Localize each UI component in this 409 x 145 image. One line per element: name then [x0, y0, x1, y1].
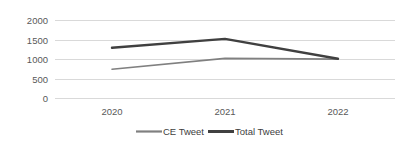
- y-axis-tick-labels: 2000 1500 1000 500 0: [27, 15, 48, 104]
- y-tick-label-0: 0: [43, 93, 48, 104]
- x-axis-tick-labels: 2020 2021 2022: [101, 106, 348, 117]
- data-series-group: [112, 39, 338, 69]
- x-tick-label-2021: 2021: [214, 106, 235, 117]
- y-tick-label-500: 500: [32, 74, 48, 85]
- series-line-total-tweet: [112, 39, 338, 59]
- legend-label-ce-tweet: CE Tweet: [163, 126, 204, 137]
- gridlines: [55, 21, 395, 99]
- y-tick-label-2000: 2000: [27, 15, 48, 26]
- y-tick-label-1000: 1000: [27, 54, 48, 65]
- y-tick-label-1500: 1500: [27, 35, 48, 46]
- x-tick-label-2020: 2020: [101, 106, 122, 117]
- legend-label-total-tweet: Total Tweet: [235, 126, 283, 137]
- x-tick-label-2022: 2022: [327, 106, 348, 117]
- line-chart: 2000 1500 1000 500 0 2020 2021 2022 CE T…: [0, 0, 409, 145]
- chart-canvas: 2000 1500 1000 500 0 2020 2021 2022 CE T…: [0, 0, 409, 145]
- legend: CE Tweet Total Tweet: [136, 126, 283, 137]
